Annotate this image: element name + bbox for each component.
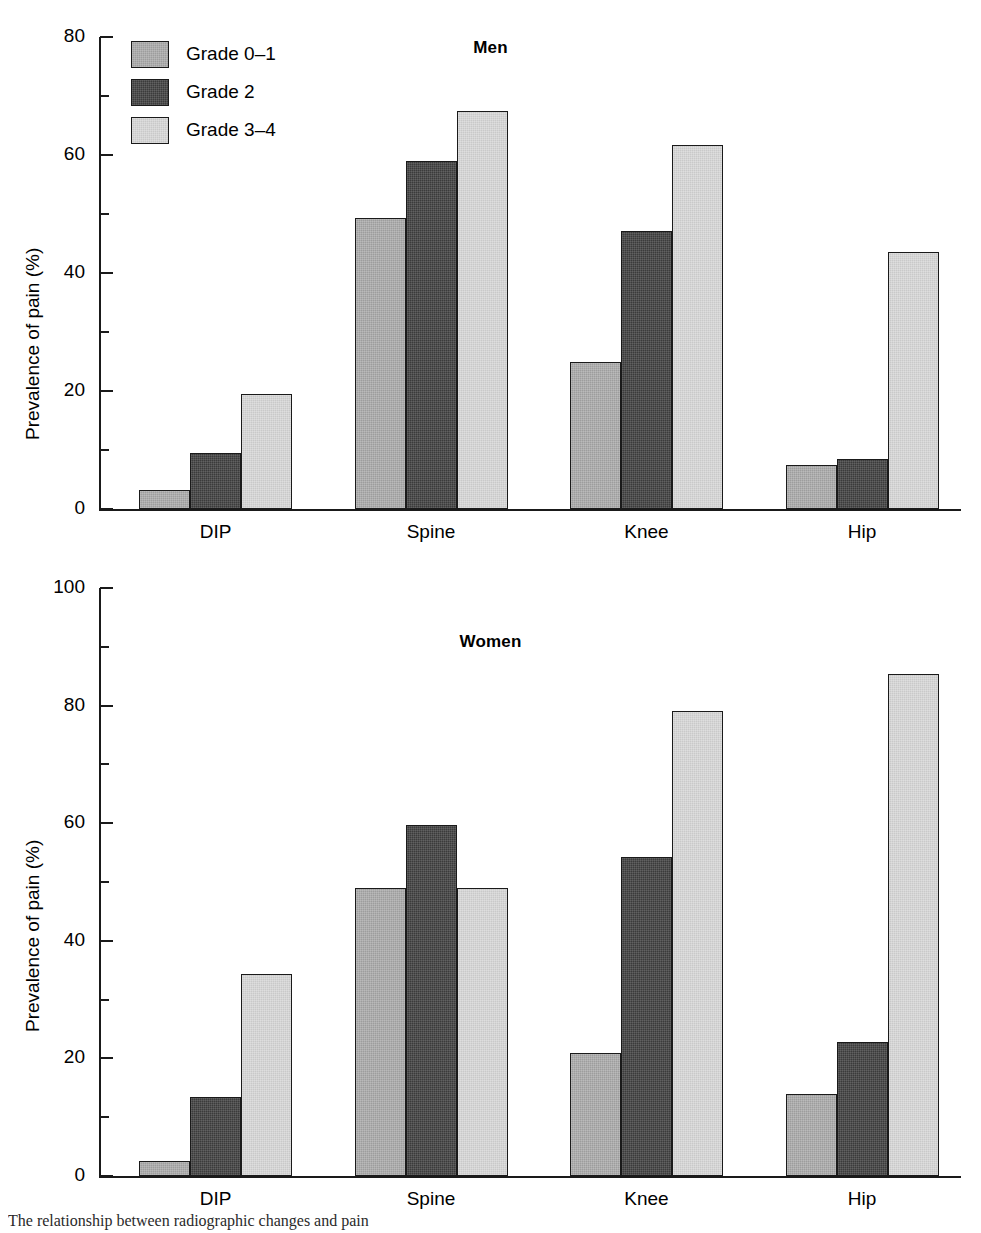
bar (355, 888, 406, 1176)
y-tick-label: 80 (5, 694, 85, 716)
y-tick-major (100, 1057, 113, 1059)
y-tick-major (100, 587, 113, 589)
y-tick-minor (100, 646, 109, 648)
y-tick-major (100, 822, 113, 824)
bar (837, 1042, 888, 1176)
bar (888, 674, 939, 1176)
y-tick-label: 60 (5, 811, 85, 833)
bar (139, 1161, 190, 1176)
chart-panel-women: Women Prevalence of pain (%) 02040608010… (0, 0, 981, 1233)
y-tick-label: 100 (5, 576, 85, 598)
x-axis-line-women (99, 1176, 961, 1178)
bar (570, 1053, 621, 1176)
x-axis-label-spine: Spine (361, 1188, 501, 1210)
y-tick-label: 0 (5, 1164, 85, 1186)
chart-title-women: Women (0, 632, 981, 652)
bar (457, 888, 508, 1176)
y-tick-minor (100, 763, 109, 765)
x-axis-label-hip: Hip (792, 1188, 932, 1210)
y-tick-label: 20 (5, 1046, 85, 1068)
x-axis-label-knee: Knee (577, 1188, 717, 1210)
bar (621, 857, 672, 1176)
figure-page: Men Prevalence of pain (%) 020406080 DIP… (0, 0, 981, 1233)
bar (786, 1094, 837, 1176)
bar (241, 974, 292, 1176)
y-tick-major (100, 940, 113, 942)
bar (672, 711, 723, 1176)
bar (190, 1097, 241, 1176)
y-tick-major (100, 705, 113, 707)
figure-caption: The relationship between radiographic ch… (8, 1212, 968, 1230)
y-tick-minor (100, 1116, 109, 1118)
x-axis-label-dip: DIP (146, 1188, 286, 1210)
bar (406, 825, 457, 1176)
y-tick-label: 40 (5, 929, 85, 951)
y-tick-major (100, 1175, 113, 1177)
y-tick-minor (100, 881, 109, 883)
y-tick-minor (100, 999, 109, 1001)
